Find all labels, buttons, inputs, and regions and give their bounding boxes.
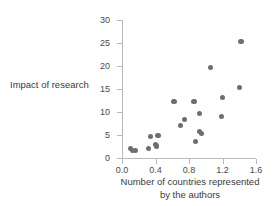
data-point: [197, 111, 202, 116]
x-tick-label: 0.4: [149, 166, 162, 175]
y-tick-label: 25: [100, 39, 110, 48]
data-point: [193, 139, 198, 144]
y-tick-mark: [117, 20, 122, 21]
data-point: [191, 99, 196, 104]
y-tick-label: 5: [105, 131, 110, 140]
data-point: [148, 134, 153, 139]
x-tick-mark: [256, 159, 257, 164]
plot-area: 051015202530 0.00.40.81.21.6: [122, 20, 256, 158]
x-tick-mark: [122, 159, 123, 164]
data-point: [182, 117, 187, 122]
y-tick-label: 20: [100, 62, 110, 71]
data-point: [238, 39, 243, 44]
data-point: [154, 143, 159, 148]
x-axis-label-line-1: Number of countries represented: [121, 176, 260, 187]
y-tick-mark: [117, 89, 122, 90]
scatter-plot-figure: Impact of research Number of countries r…: [0, 0, 278, 206]
data-point: [208, 65, 213, 70]
x-tick-label: 1.2: [216, 166, 229, 175]
y-tick-label: 10: [100, 108, 110, 117]
x-tick-label: 0.8: [183, 166, 196, 175]
data-point: [146, 146, 151, 151]
x-tick-label: 1.6: [250, 166, 263, 175]
y-axis-label: Impact of research: [10, 79, 102, 91]
y-tick-label: 15: [100, 85, 110, 94]
y-tick-mark: [117, 135, 122, 136]
data-point: [178, 123, 183, 128]
data-point: [155, 133, 160, 138]
y-tick-label: 30: [100, 16, 110, 25]
x-axis-label: Number of countries represented by the a…: [104, 176, 276, 201]
data-point: [237, 85, 242, 90]
y-tick-mark: [117, 43, 122, 44]
x-tick-mark: [189, 159, 190, 164]
data-point: [133, 148, 138, 153]
y-tick-mark: [117, 66, 122, 67]
data-point: [199, 131, 204, 136]
x-tick-mark: [156, 159, 157, 164]
data-point: [171, 99, 176, 104]
data-point: [219, 114, 224, 119]
y-axis-line: [122, 20, 123, 158]
x-tick-label: 0.0: [116, 166, 129, 175]
x-tick-mark: [223, 159, 224, 164]
y-tick-mark: [117, 112, 122, 113]
x-axis-label-line-2: by the authors: [104, 189, 276, 202]
data-point: [220, 95, 225, 100]
y-tick-label: 0: [105, 154, 110, 163]
